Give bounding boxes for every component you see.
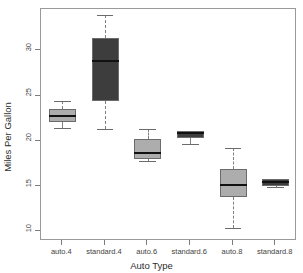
x-axis-tick [104, 240, 105, 245]
median-line [262, 181, 289, 183]
y-axis-tick-label: 10 [24, 224, 33, 232]
x-axis-tick-label: auto.6 [136, 247, 157, 256]
boxplot-chart: Miles Per Gallon 1015202530 Auto Type au… [0, 0, 303, 273]
x-axis-tick-label: standard.6 [172, 247, 207, 256]
y-axis-tick-label: 30 [24, 43, 33, 51]
y-axis-tick-label: 25 [24, 88, 33, 96]
x-axis-tick [274, 240, 275, 245]
plot-area [40, 8, 296, 240]
boxplot-group [41, 9, 297, 239]
y-axis-tick-label: 20 [24, 133, 33, 141]
y-axis: Miles Per Gallon 1015202530 [0, 0, 40, 273]
y-axis-title: Miles Per Gallon [2, 102, 13, 172]
x-axis-tick-label: auto.4 [51, 247, 72, 256]
x-axis-tick-label: standard.8 [257, 247, 292, 256]
y-axis-tick-label: 15 [24, 179, 33, 187]
whisker-cap-lower [267, 187, 284, 188]
clipped-title-artifact [176, 0, 296, 3]
x-axis-tick-label: auto.8 [222, 247, 243, 256]
x-axis-tick-label: standard.4 [86, 247, 121, 256]
x-axis-tick [146, 240, 147, 245]
x-axis-tick [189, 240, 190, 245]
x-axis-tick [232, 240, 233, 245]
x-axis-title: Auto Type [130, 260, 173, 271]
x-axis-tick [61, 240, 62, 245]
x-axis: Auto Type auto.4standard.4auto.6standard… [0, 240, 303, 273]
